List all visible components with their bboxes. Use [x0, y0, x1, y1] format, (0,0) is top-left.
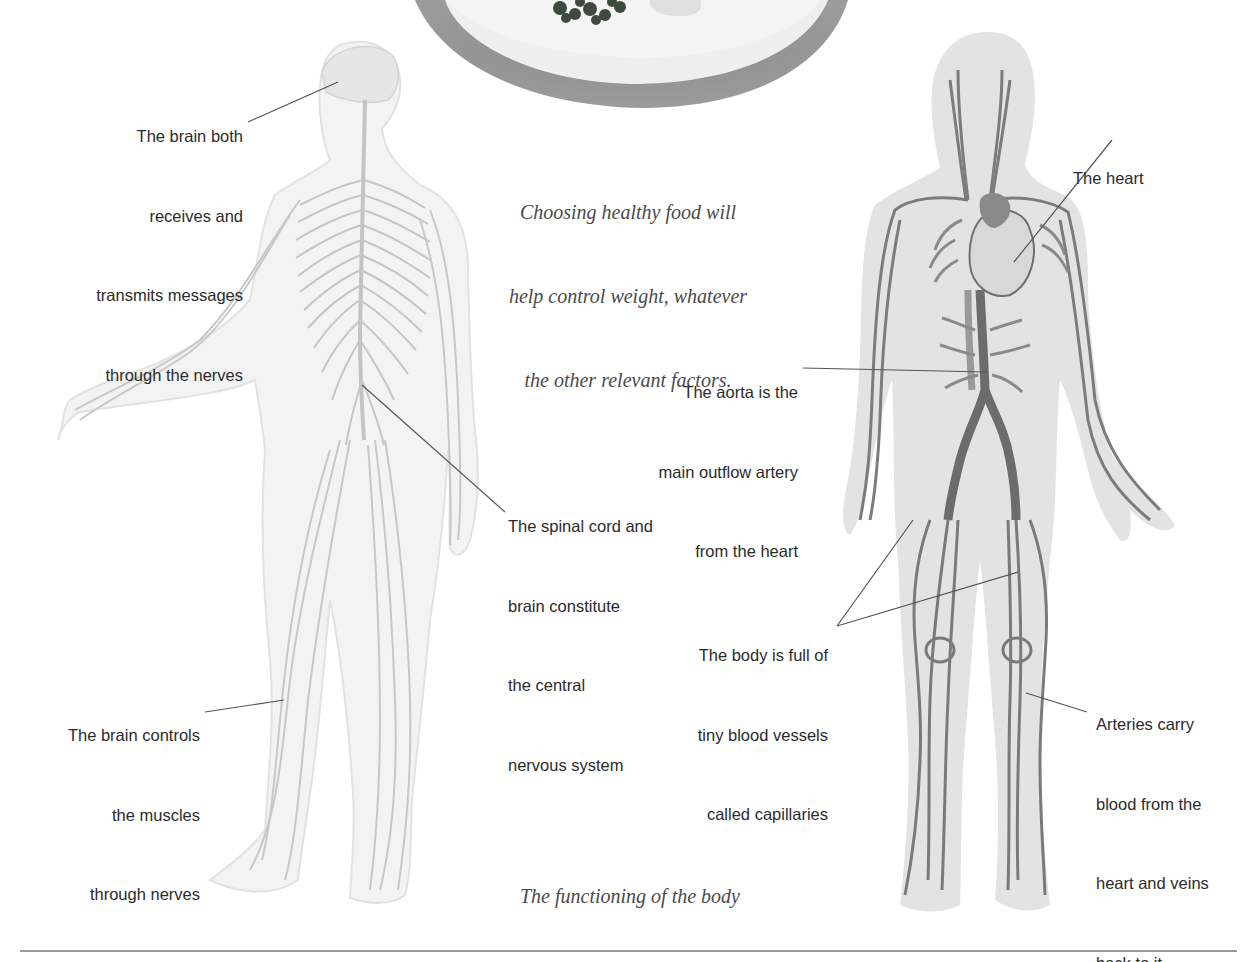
- label-arteries: Arteries carry blood from the heart and …: [1096, 658, 1256, 962]
- label-aorta: The aorta is the main outflow artery fro…: [610, 326, 798, 591]
- page-bottom-rule: [20, 950, 1237, 952]
- label-brain: The brain both receives and transmits me…: [60, 70, 243, 415]
- label-muscles: The brain controls the muscles through n…: [30, 669, 200, 934]
- label-capillaries: The body is full of tiny blood vessels c…: [660, 589, 828, 854]
- plate-photo: [415, 0, 848, 108]
- label-heart: The heart: [1073, 112, 1193, 218]
